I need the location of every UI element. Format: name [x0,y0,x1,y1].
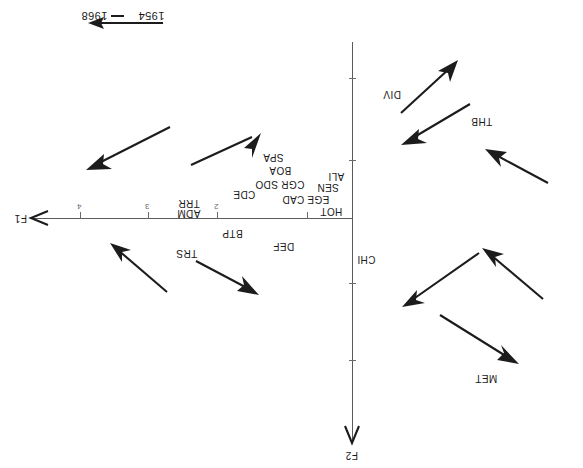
point-label-div: DIV [383,89,401,99]
arrow-trajectory-lower-right-a [482,248,543,299]
arrow-trajectory-met [440,315,519,364]
axis-label-f1: F1 [14,213,27,223]
y-tick-lower-1 [349,283,356,284]
point-label-cgr: CGR [281,179,304,189]
point-label-ali: ALI [328,171,344,181]
point-label-sdo: SDO [255,179,278,189]
y-tick-upper-2 [349,160,356,161]
point-label-btp: BTP [222,228,243,238]
arrow-trajectory-div [401,60,458,113]
point-label-adm: ADM [177,208,200,218]
point-label-boa: BOA [269,165,291,175]
point-label-thb: THB [471,116,492,126]
x-tick-label-3: 3 [145,202,149,210]
x-tick-label-2: 2 [214,202,218,210]
point-label-cde: CDE [233,189,255,199]
point-label-spa: SPA [263,152,283,162]
time-separator-dash [111,15,124,17]
point-label-hot: HOT [320,206,342,216]
axis-label-f2: F2 [345,450,358,460]
point-label-def: DEF [273,241,294,251]
x-tick-4 [80,212,81,219]
axis-arrowheads [0,0,583,468]
y-tick-lower-2 [349,360,356,361]
time-label-1968: 1968 [81,10,107,21]
y-tick-upper [349,78,356,79]
arrow-trajectory-lower-left-a [110,243,167,292]
arrow-trajectory-lower-left-b [196,261,259,295]
point-label-ege: EGE [307,194,329,204]
vertical-axis-f2 [352,42,353,442]
x-tick-2 [217,212,218,219]
arrow-trajectory-lower-right-b [402,253,479,307]
point-label-trs: TRS [176,248,197,258]
arrow-trajectory-thb [401,104,470,145]
x-tick-label-4: 4 [77,202,81,210]
x-tick-1 [307,212,308,219]
trajectory-arrows [0,0,583,468]
point-label-chi: CHI [357,254,375,264]
point-label-trr: TRR [178,198,200,208]
biplot-figure: 4 3 2 F1 F2 1954 1968 HOT EGE CAD SEN AL… [0,0,583,468]
arrow-trajectory-right-mid [485,149,548,183]
point-label-met: MET [475,373,497,383]
arrow-trajectory-upper-left [86,127,170,170]
point-label-sen: SEN [317,182,339,192]
arrow-trajectory-spa-boa [191,133,261,165]
point-label-cad: CAD [282,194,304,204]
time-label-1954: 1954 [138,10,164,21]
x-tick-3 [148,212,149,219]
